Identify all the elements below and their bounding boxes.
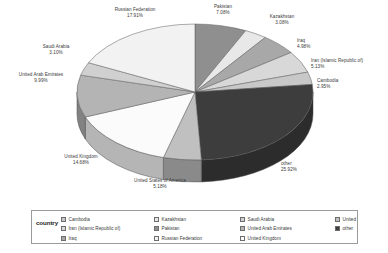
slice-label-saudi-arabia: Saudi Arabia 3.10% [28, 44, 84, 55]
slice-label-united-kingdom: United Kingdom 14.68% [46, 154, 116, 165]
slice-label-percent: 25.92% [281, 167, 331, 173]
legend-item-label: United States of America [343, 217, 358, 222]
legend-swatch-icon [240, 226, 245, 231]
legend-swatch-icon [61, 217, 66, 222]
slice-label-pakistan: Pakistan 7.08% [196, 4, 250, 15]
legend-item-saudi-arabia[interactable]: Saudi Arabia [240, 215, 335, 224]
legend-swatch-icon [154, 236, 159, 241]
slice-label-kazakhstan: Kazakhstan 3.08% [255, 14, 309, 25]
slice-label-percent: 7.08% [196, 10, 250, 16]
legend-item-cambodia[interactable]: Cambodia [61, 215, 154, 224]
legend-item-iran-islamic-republic-of[interactable]: Iran (Islamic Republic of) [61, 224, 154, 233]
legend-item-united-states-of-america[interactable]: United States of America [335, 215, 357, 224]
legend-item-label: Iran (Islamic Republic of) [69, 226, 121, 231]
legend-swatch-icon [61, 236, 66, 241]
legend-swatch-icon [61, 226, 66, 231]
legend-item-label: Iraq [69, 236, 77, 241]
legend-item-iraq[interactable]: Iraq [61, 234, 154, 243]
slice-label-percent: 3.10% [28, 50, 84, 56]
legend-item-other[interactable]: other [335, 224, 357, 233]
legend-item-label: United Arab Emirates [248, 226, 292, 231]
legend-item-united-kingdom[interactable]: United Kingdom [240, 234, 335, 243]
pie-chart: Russian Federation 17.91% Pakistan 7.08%… [0, 0, 388, 200]
legend-swatch-icon [335, 226, 340, 231]
legend-item-united-arab-emirates[interactable]: United Arab Emirates [240, 224, 335, 233]
slice-label-percent: 14.68% [46, 160, 116, 166]
slice-label-percent: 2.95% [317, 84, 367, 90]
slice-label-percent: 5.18% [117, 184, 203, 190]
slice-label-cambodia: Cambodia 2.95% [317, 78, 367, 89]
legend-item-kazakhstan[interactable]: Kazakhstan [154, 215, 240, 224]
legend-item-label: other [343, 226, 354, 231]
slice-label-russian-federation: Russian Federation 17.91% [96, 7, 174, 18]
legend-swatch-icon [240, 217, 245, 222]
legend-item-russian-federation[interactable]: Russian Federation [154, 234, 240, 243]
slice-label-united-arab-emirates: United Arab Emirates 9.99% [2, 72, 80, 83]
pie-top-group [77, 24, 313, 160]
slice-label-percent: 5.13% [311, 64, 387, 70]
slice-label-iran: Iran (Islamic Republic of) 5.13% [311, 58, 387, 69]
legend-title: country [34, 213, 61, 226]
legend: country CambodiaKazakhstanSaudi ArabiaUn… [31, 210, 358, 244]
legend-swatch-icon [154, 226, 159, 231]
legend-item-label: United Kingdom [248, 236, 281, 241]
slice-label-iraq: Iraq 4.98% [297, 38, 343, 49]
legend-entries: CambodiaKazakhstanSaudi ArabiaUnited Sta… [61, 213, 357, 243]
legend-item-pakistan[interactable]: Pakistan [154, 224, 240, 233]
slice-label-percent: 9.99% [2, 78, 80, 84]
legend-item-label: Cambodia [69, 217, 90, 222]
slice-label-percent: 17.91% [96, 13, 174, 19]
slice-label-united-states-of-america: United States of America 5.18% [117, 178, 203, 189]
legend-swatch-icon [154, 217, 159, 222]
slice-label-percent: 3.08% [255, 20, 309, 26]
legend-item-label: Kazakhstan [162, 217, 187, 222]
legend-item-label: Russian Federation [162, 236, 203, 241]
slice-label-other: other 25.92% [281, 161, 331, 172]
slice-label-percent: 4.98% [297, 44, 343, 50]
legend-item-label: Pakistan [162, 226, 180, 231]
legend-item-label: Saudi Arabia [248, 217, 275, 222]
legend-swatch-icon [240, 236, 245, 241]
legend-swatch-icon [335, 217, 340, 222]
